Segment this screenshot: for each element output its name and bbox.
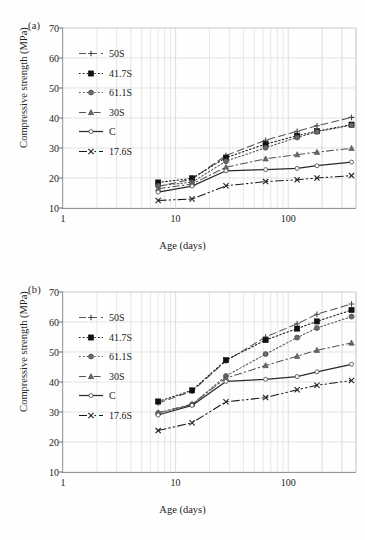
y-axis-label-b: Compressive strength (MPa) [18, 267, 29, 437]
y-tick-mark [59, 178, 63, 179]
y-tick-mark [59, 292, 63, 293]
legend-item-50S[interactable]: 50S [78, 312, 132, 323]
legend-label: 30S [109, 107, 125, 118]
legend-item-41-7S[interactable]: 41.7S [78, 68, 132, 79]
legend-label: 41.7S [109, 332, 132, 343]
legend-label: 30S [109, 371, 125, 382]
legend-key-C [78, 390, 104, 401]
legend-b: 50S41.7S61.1S30SC17.6S [78, 312, 132, 421]
y-tick-label: 40 [49, 113, 59, 124]
legend-item-C[interactable]: C [78, 390, 132, 401]
y-tick-mark [59, 148, 63, 149]
legend-key-C [78, 126, 104, 137]
y-tick-label: 10 [49, 467, 59, 478]
figure-compressive-strength: (a) Compressive strength (MPa) 102030405… [0, 0, 365, 540]
y-tick-label: 70 [49, 23, 59, 34]
legend-key-41-7S [78, 332, 104, 343]
chart-panel-b: (b) Compressive strength (MPa) 102030405… [0, 268, 365, 530]
x-tick-label: 100 [281, 213, 296, 224]
panel-label-a: (a) [28, 20, 40, 31]
legend-key-61-1S [78, 87, 104, 98]
y-tick-label: 30 [49, 143, 59, 154]
y-tick-mark [59, 412, 63, 413]
legend-item-50S[interactable]: 50S [78, 48, 132, 59]
legend-item-41-7S[interactable]: 41.7S [78, 332, 132, 343]
y-tick-label: 60 [49, 53, 59, 64]
x-tick-label: 10 [171, 213, 181, 224]
y-tick-mark [59, 472, 63, 473]
legend-item-C[interactable]: C [78, 126, 132, 137]
legend-key-17-6S [78, 410, 104, 421]
y-tick-mark [59, 58, 63, 59]
legend-key-30S [78, 371, 104, 382]
legend-a: 50S41.7S61.1S30SC17.6S [78, 48, 132, 157]
legend-item-61-1S[interactable]: 61.1S [78, 87, 132, 98]
y-tick-label: 20 [49, 173, 59, 184]
legend-label: 61.1S [109, 87, 132, 98]
y-tick-mark [59, 28, 63, 29]
legend-label: 17.6S [109, 146, 132, 157]
y-tick-mark [59, 208, 63, 209]
legend-item-17-6S[interactable]: 17.6S [78, 146, 132, 157]
legend-key-30S [78, 107, 104, 118]
y-tick-mark [59, 88, 63, 89]
y-tick-label: 10 [49, 203, 59, 214]
legend-item-17-6S[interactable]: 17.6S [78, 410, 132, 421]
y-tick-label: 50 [49, 347, 59, 358]
y-tick-label: 70 [49, 287, 59, 298]
legend-label: 61.1S [109, 351, 132, 362]
legend-item-61-1S[interactable]: 61.1S [78, 351, 132, 362]
y-tick-label: 60 [49, 317, 59, 328]
x-tick-label: 1 [61, 213, 66, 224]
legend-key-61-1S [78, 351, 104, 362]
y-tick-mark [59, 118, 63, 119]
y-tick-label: 50 [49, 83, 59, 94]
x-axis-label-a: Age (days) [0, 240, 365, 251]
x-tick-label: 1 [61, 477, 66, 488]
legend-label: 41.7S [109, 68, 132, 79]
y-tick-label: 30 [49, 407, 59, 418]
y-tick-mark [59, 322, 63, 323]
legend-label: 17.6S [109, 410, 132, 421]
y-tick-mark [59, 352, 63, 353]
y-axis-label-a: Compressive strength (MPa) [18, 3, 29, 173]
x-tick-label: 10 [171, 477, 181, 488]
y-tick-label: 40 [49, 377, 59, 388]
legend-key-17-6S [78, 146, 104, 157]
legend-label: C [109, 390, 116, 401]
y-tick-mark [59, 442, 63, 443]
legend-key-50S [78, 312, 104, 323]
legend-key-41-7S [78, 68, 104, 79]
panel-label-b: (b) [28, 284, 41, 295]
legend-item-30S[interactable]: 30S [78, 371, 132, 382]
legend-item-30S[interactable]: 30S [78, 107, 132, 118]
legend-label: 50S [109, 312, 125, 323]
y-tick-mark [59, 382, 63, 383]
legend-label: 50S [109, 48, 125, 59]
legend-label: C [109, 126, 116, 137]
x-tick-label: 100 [281, 477, 296, 488]
y-tick-label: 20 [49, 437, 59, 448]
legend-key-50S [78, 48, 104, 59]
chart-panel-a: (a) Compressive strength (MPa) 102030405… [0, 4, 365, 266]
x-axis-label-b: Age (days) [0, 504, 365, 515]
